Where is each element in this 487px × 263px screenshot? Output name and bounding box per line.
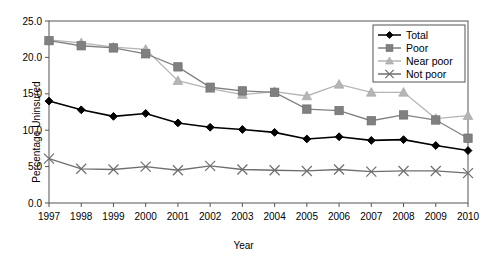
data-point-marker (206, 83, 214, 91)
data-point-marker (271, 128, 279, 136)
x-axis-tick-label: 1997 (38, 211, 61, 222)
data-point-marker (303, 105, 311, 113)
data-point-marker (463, 111, 473, 120)
x-axis-tick-label: 2003 (231, 211, 254, 222)
series-line (49, 101, 468, 151)
data-point-marker (174, 63, 182, 71)
plot-area: 0.05.010.015.020.025.0199719981999200020… (0, 0, 487, 263)
x-axis-tick-label: 2004 (263, 211, 286, 222)
data-point-marker (174, 119, 182, 127)
y-axis-tick-label: 0.0 (28, 198, 42, 209)
data-point-marker (335, 106, 343, 114)
data-point-marker (142, 110, 150, 118)
data-point-marker (206, 123, 214, 131)
legend-item-label: Poor (406, 42, 429, 54)
x-axis-tick-label: 1998 (70, 211, 93, 222)
x-axis-tick-label: 2009 (425, 211, 448, 222)
data-point-marker (110, 112, 118, 120)
data-point-marker (464, 134, 472, 142)
x-axis-tick-label: 2008 (392, 211, 415, 222)
data-point-marker (432, 116, 440, 124)
data-point-marker (400, 136, 408, 144)
data-point-marker (386, 45, 393, 52)
data-point-marker (109, 44, 117, 52)
y-axis-tick-label: 15.0 (23, 88, 43, 99)
x-axis-tick-label: 2006 (328, 211, 351, 222)
y-axis-tick-label: 5.0 (28, 161, 42, 172)
data-point-marker (367, 117, 375, 125)
data-point-marker (77, 42, 85, 50)
series-not-poor (44, 154, 473, 179)
x-axis-tick-label: 2007 (360, 211, 383, 222)
data-point-marker (399, 111, 407, 119)
legend-item-label: Near poor (406, 55, 453, 67)
data-point-marker (77, 106, 85, 114)
data-point-marker (238, 126, 246, 134)
data-point-marker (303, 135, 311, 143)
legend-item-label: Total (406, 29, 428, 41)
x-axis-tick-label: 2010 (457, 211, 480, 222)
data-point-marker (334, 80, 344, 89)
data-point-marker (238, 87, 246, 95)
x-axis-tick-label: 1999 (102, 211, 125, 222)
x-axis-tick-label: 2001 (167, 211, 190, 222)
data-point-marker (464, 147, 472, 155)
uninsured-percentage-line-chart: Percentage Uninsured Year 0.05.010.015.0… (0, 0, 487, 263)
data-point-marker (367, 136, 375, 144)
x-axis-tick-label: 2002 (199, 211, 222, 222)
data-point-marker (335, 133, 343, 141)
x-axis-tick-label: 2005 (296, 211, 319, 222)
data-point-marker (45, 97, 53, 105)
x-axis-tick-label: 2000 (135, 211, 158, 222)
y-axis-tick-label: 10.0 (23, 125, 43, 136)
y-axis-tick-label: 25.0 (23, 16, 43, 27)
data-point-marker (45, 36, 53, 44)
legend-item-label: Not poor (406, 68, 447, 80)
series-total (45, 97, 472, 154)
data-point-marker (141, 50, 149, 58)
legend: TotalPoorNear poorNot poor (373, 25, 465, 82)
data-point-marker (270, 88, 278, 96)
y-axis-tick-label: 20.0 (23, 52, 43, 63)
data-point-marker (432, 142, 440, 150)
